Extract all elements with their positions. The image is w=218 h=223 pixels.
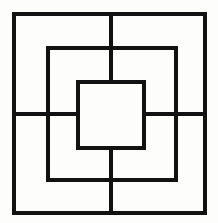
- figure-canvas: [0, 0, 218, 223]
- inner-square-fill: [80, 84, 142, 146]
- nested-squares-figure: [0, 0, 218, 223]
